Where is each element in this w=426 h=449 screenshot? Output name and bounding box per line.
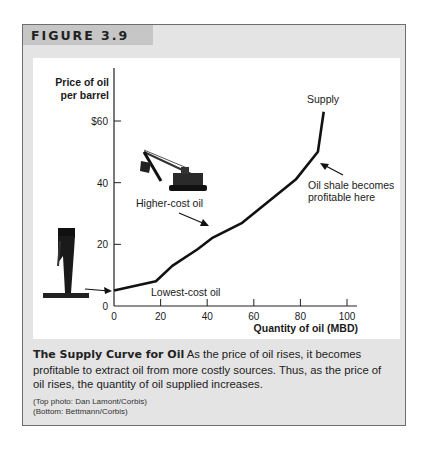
excavator-photo: [140, 150, 207, 191]
x-tick-label: 80: [295, 311, 307, 322]
annotation-supply: Supply: [307, 93, 340, 105]
oil-gusher-photo: [43, 228, 89, 298]
figure-frame: FIGURE 3.9 02040608010002040$60 Price of…: [22, 24, 406, 426]
figure-title-band: FIGURE 3.9: [23, 25, 153, 45]
annotation-oil-shale-line2: profitable here: [308, 191, 375, 203]
annotation-lowest-cost: Lowest-cost oil: [151, 286, 220, 298]
arrow-oil-shale: [320, 163, 343, 175]
y-axis-label-line2: per barrel: [61, 89, 110, 101]
photo-credits: (Top photo: Dan Lamont/Corbis) (Bottom: …: [33, 397, 147, 417]
y-tick-label: 0: [102, 301, 108, 312]
figure-caption: The Supply Curve for Oil As the price of…: [33, 347, 393, 392]
y-tick-label: $60: [91, 116, 108, 127]
x-axis-label: Quantity of oil (MBD): [254, 322, 358, 334]
annotation-higher-cost: Higher-cost oil: [136, 197, 203, 209]
x-tick-label: 20: [155, 311, 167, 322]
figure-label: FIGURE 3.9: [31, 28, 129, 43]
x-tick-label: 60: [248, 311, 260, 322]
y-tick-label: 20: [97, 239, 109, 250]
x-tick-label: 100: [339, 311, 356, 322]
caption-title: The Supply Curve for Oil: [33, 348, 184, 361]
credit-bottom: (Bottom: Bettmann/Corbis): [33, 407, 147, 417]
chart-panel: 02040608010002040$60 Price of oil per ba…: [33, 58, 400, 339]
x-tick-label: 0: [111, 311, 117, 322]
y-tick-label: 40: [97, 178, 109, 189]
supply-chart: 02040608010002040$60 Price of oil per ba…: [33, 58, 400, 339]
arrow-higher-cost: [179, 213, 209, 226]
x-tick-label: 40: [202, 311, 214, 322]
annotation-oil-shale-line1: Oil shale becomes: [308, 179, 394, 191]
y-axis-label-line1: Price of oil: [55, 76, 109, 88]
arrow-lowest-cost: [85, 287, 112, 294]
credit-top: (Top photo: Dan Lamont/Corbis): [33, 397, 147, 407]
